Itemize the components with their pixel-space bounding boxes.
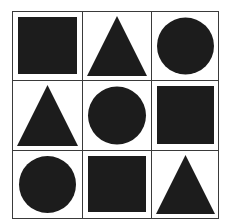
grid-cell-r2-c2 [83,81,151,150]
grid-cell-r2-c3 [152,81,219,150]
grid-cell-r3-c2 [83,151,151,218]
triangle-icon [152,151,219,218]
circle-icon [13,151,82,218]
circle-icon [83,81,151,150]
triangle-icon [83,12,151,80]
shape-grid [12,11,219,219]
square-icon [13,12,82,80]
grid-cell-r1-c3 [152,12,219,80]
square-icon [83,151,151,218]
grid-cell-r3-c1 [13,151,82,218]
grid-cell-r2-c1 [13,81,82,150]
grid-cell-r1-c2 [83,12,151,80]
triangle-icon [13,81,82,150]
square-icon [152,81,219,150]
grid-cell-r1-c1 [13,12,82,80]
grid-cell-r3-c3 [152,151,219,218]
circle-icon [152,12,219,80]
